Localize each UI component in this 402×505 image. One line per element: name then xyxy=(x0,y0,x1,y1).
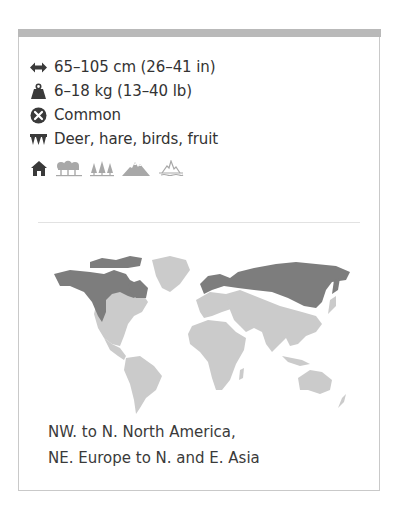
status-x-circle-icon xyxy=(30,107,47,124)
range-line-2: NE. Europe to N. and E. Asia xyxy=(48,445,260,471)
fact-weight: 6–18 kg (13–40 lb) xyxy=(30,79,360,103)
divider xyxy=(38,222,360,223)
range-line-1: NW. to N. North America, xyxy=(48,419,260,445)
card-top-bar xyxy=(18,29,381,37)
fact-length: 65–105 cm (26–41 in) xyxy=(30,55,360,79)
deciduous-trees-icon xyxy=(56,160,82,177)
length-text: 65–105 cm (26–41 in) xyxy=(54,58,215,76)
house-icon xyxy=(30,160,48,177)
tundra-icon xyxy=(158,160,184,177)
facts-list: 65–105 cm (26–41 in) 6–18 kg (13–40 lb) … xyxy=(30,55,360,177)
range-description: NW. to N. North America, NE. Europe to N… xyxy=(48,419,260,471)
mountains-icon xyxy=(122,160,150,177)
weight-icon xyxy=(30,83,47,100)
habitat-icons xyxy=(30,151,360,177)
status-text: Common xyxy=(54,106,121,124)
fact-status: Common xyxy=(30,103,360,127)
weight-text: 6–18 kg (13–40 lb) xyxy=(54,82,192,100)
teeth-icon xyxy=(30,131,47,148)
range-map xyxy=(40,240,370,415)
length-arrows-icon xyxy=(30,59,47,76)
fact-diet: Deer, hare, birds, fruit xyxy=(30,127,360,151)
conifer-trees-icon xyxy=(90,160,114,177)
diet-text: Deer, hare, birds, fruit xyxy=(54,130,218,148)
